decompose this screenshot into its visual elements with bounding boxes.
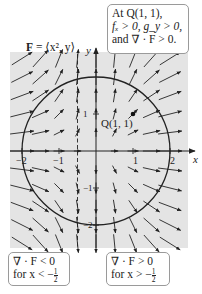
y-axis-label: y: [85, 44, 91, 56]
field-symbol: F: [26, 41, 33, 53]
x-axis-label: x: [192, 153, 198, 165]
x-tick-label: 2: [170, 155, 175, 166]
callout-divergence-positive: ∇ · F > 0 for x > −12: [106, 252, 170, 286]
callout-top-line3: and ∇ · F > 0.: [112, 33, 184, 46]
fraction-one-half: 12: [54, 268, 58, 283]
fraction-one-half: 12: [152, 268, 156, 283]
callout-top-line2: fₓ > 0, g_y > 0,: [112, 20, 184, 33]
callout-right-line1: ∇ · F > 0: [111, 255, 165, 268]
callout-at-q: At Q(1, 1), fₓ > 0, g_y > 0, and ∇ · F >…: [107, 4, 189, 54]
point-q: [131, 112, 136, 117]
x-tick-label: −2: [16, 155, 27, 166]
x-tick-label: 1: [133, 155, 138, 166]
field-definition-label: F = ⟨x², y⟩: [26, 40, 75, 54]
frac-den: 2: [152, 276, 156, 283]
x-tick-label: −1: [53, 155, 64, 166]
y-tick-label: −2: [83, 220, 93, 230]
vector-field-figure: −2−1121−1−2 Q(1, 1) x y F = ⟨x², y⟩ At Q…: [0, 0, 202, 294]
y-tick-label: −1: [83, 183, 93, 193]
callout-right-line2: for x > −12: [111, 268, 165, 283]
callout-left-line2: for x < −12: [13, 268, 65, 283]
point-q-label: Q(1, 1): [101, 117, 133, 130]
callout-right-prefix: for x > −: [111, 268, 152, 280]
y-tick-label: 1: [83, 109, 88, 119]
callout-left-prefix: for x < −: [13, 268, 54, 280]
callout-top-line1: At Q(1, 1),: [112, 7, 184, 20]
callout-divergence-negative: ∇ · F < 0 for x < −12: [8, 252, 70, 286]
field-formula: = ⟨x², y⟩: [33, 41, 75, 53]
frac-den: 2: [54, 276, 58, 283]
